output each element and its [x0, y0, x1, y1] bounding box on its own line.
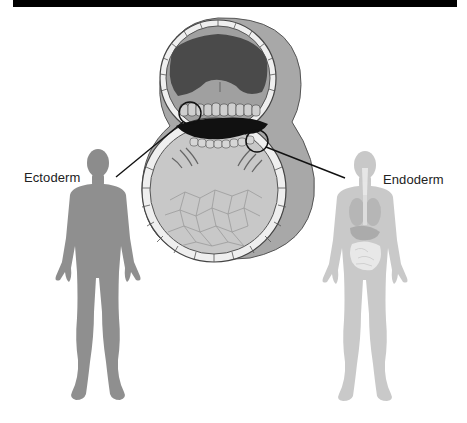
endoderm-human-figure — [323, 151, 410, 402]
embryo-diagram — [0, 0, 467, 423]
epiblast-cells — [180, 103, 260, 116]
endoderm-label: Endoderm — [383, 172, 444, 187]
ectoderm-label: Ectoderm — [24, 170, 80, 185]
ectoderm-human-figure — [56, 149, 141, 400]
embryo-bilaminar-disc — [142, 18, 315, 262]
